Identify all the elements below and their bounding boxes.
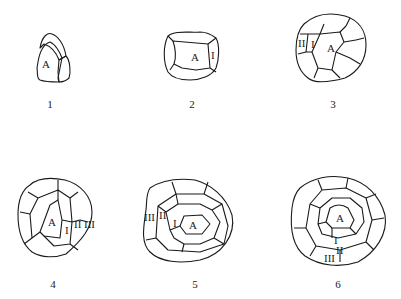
stage-2: A I 2: [164, 32, 218, 110]
label-a: A: [336, 212, 344, 224]
stage-number: 6: [335, 278, 341, 290]
stage-number: 4: [50, 278, 56, 290]
label-i: I: [65, 224, 69, 236]
stage-1: A 1: [37, 34, 70, 110]
label-a: A: [42, 58, 50, 70]
label-ii: II: [74, 218, 82, 230]
label-i: I: [173, 217, 177, 229]
stage-number: 3: [330, 98, 336, 110]
label-a: A: [48, 216, 56, 228]
stage-3: II I A 3: [296, 14, 366, 110]
ring-ii: [298, 18, 364, 64]
label-a: A: [327, 42, 335, 54]
label-i: I: [211, 49, 215, 61]
label-i: I: [311, 38, 315, 50]
stage-number: 1: [47, 98, 53, 110]
label-iii: III: [144, 211, 155, 223]
label-iii: III: [324, 252, 335, 264]
stage-4: A I II III 4: [18, 178, 95, 290]
stage-number: 5: [192, 278, 198, 290]
label-a: A: [191, 51, 199, 63]
label-ii: II: [336, 244, 344, 256]
label-iii: III: [84, 218, 95, 230]
label-ii: II: [159, 209, 167, 221]
label-ii: II: [298, 37, 306, 49]
stage-6: A I II III 6: [291, 176, 385, 290]
label-a: A: [189, 219, 197, 231]
stage-5: III II I A 5: [144, 179, 233, 290]
cell-division-diagram: A 1 A I 2 II I A 3 A I II III 4: [0, 0, 401, 299]
stage-number: 2: [189, 98, 195, 110]
